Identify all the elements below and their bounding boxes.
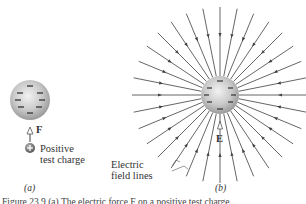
negative-charged-sphere-b (201, 76, 239, 114)
field-label: E (216, 133, 223, 144)
field-lines-label-line2: field lines (111, 170, 153, 181)
test-charge-label-line2: test charge (40, 154, 85, 165)
positive-test-charge-icon (25, 143, 35, 153)
figure-canvas (0, 0, 306, 204)
field-lines-label-line1: Electric (111, 159, 144, 170)
label-pointer-lines (172, 160, 188, 171)
panel-a-label: (a) (24, 183, 35, 194)
panel-b-label: (b) (215, 183, 226, 194)
field-vector-arrow-icon (218, 121, 223, 129)
force-arrow-icon (27, 127, 33, 142)
figure-caption: Figure 23.9 (a) The electric force F on … (2, 197, 237, 204)
force-label: F (36, 124, 42, 135)
test-charge-label-line1: Positive (40, 143, 74, 154)
negative-charged-sphere-a (10, 80, 50, 120)
